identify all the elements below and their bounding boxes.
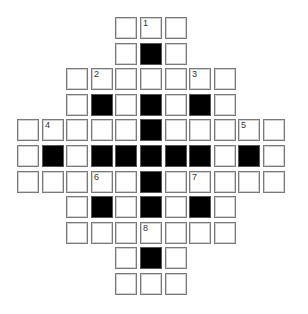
crossword-cell[interactable] — [214, 119, 236, 141]
black-cell — [140, 43, 162, 65]
black-cell — [115, 145, 137, 167]
crossword-cell[interactable] — [66, 171, 88, 193]
black-cell — [189, 94, 211, 116]
crossword-cell[interactable] — [165, 119, 187, 141]
crossword-cell[interactable] — [214, 68, 236, 90]
crossword-cell[interactable] — [263, 145, 285, 167]
crossword-cell[interactable] — [214, 145, 236, 167]
crossword-cell[interactable] — [165, 222, 187, 244]
crossword-cell[interactable] — [91, 119, 113, 141]
crossword-cell[interactable] — [115, 43, 137, 65]
clue-number: 6 — [94, 172, 99, 182]
crossword-cell[interactable] — [263, 119, 285, 141]
black-cell — [140, 196, 162, 218]
crossword-cell[interactable]: 8 — [140, 222, 162, 244]
black-cell — [238, 145, 260, 167]
crossword-cell[interactable] — [165, 196, 187, 218]
clue-number: 7 — [192, 172, 197, 182]
crossword-cell[interactable] — [165, 247, 187, 269]
clue-number: 4 — [45, 120, 50, 130]
crossword-cell[interactable] — [66, 196, 88, 218]
crossword-cell[interactable]: 4 — [42, 119, 64, 141]
crossword-cell[interactable] — [214, 171, 236, 193]
crossword-cell[interactable]: 7 — [189, 171, 211, 193]
crossword-cell[interactable] — [115, 247, 137, 269]
crossword-cell[interactable] — [17, 145, 39, 167]
clue-number: 8 — [143, 223, 148, 233]
clue-number: 2 — [94, 69, 99, 79]
black-cell — [140, 171, 162, 193]
crossword-cell[interactable] — [214, 196, 236, 218]
crossword-cell[interactable] — [189, 119, 211, 141]
black-cell — [42, 145, 64, 167]
crossword-cell[interactable] — [66, 119, 88, 141]
crossword-cell[interactable]: 1 — [140, 17, 162, 39]
crossword-grid: 12345678 — [17, 17, 289, 299]
crossword-cell[interactable] — [115, 222, 137, 244]
crossword-cell[interactable] — [66, 222, 88, 244]
crossword-cell[interactable] — [91, 222, 113, 244]
crossword-cell[interactable]: 5 — [238, 119, 260, 141]
crossword-cell[interactable] — [214, 94, 236, 116]
crossword-cell[interactable] — [115, 119, 137, 141]
crossword-cell[interactable] — [66, 145, 88, 167]
crossword-cell[interactable] — [238, 171, 260, 193]
black-cell — [189, 196, 211, 218]
crossword-cell[interactable] — [189, 222, 211, 244]
crossword-cell[interactable] — [165, 171, 187, 193]
crossword-cell[interactable]: 3 — [189, 68, 211, 90]
crossword-cell[interactable] — [66, 68, 88, 90]
black-cell — [91, 196, 113, 218]
crossword-cell[interactable] — [115, 196, 137, 218]
crossword-cell[interactable] — [17, 119, 39, 141]
black-cell — [91, 145, 113, 167]
black-cell — [140, 94, 162, 116]
black-cell — [140, 119, 162, 141]
crossword-cell[interactable]: 2 — [91, 68, 113, 90]
crossword-cell[interactable] — [165, 273, 187, 295]
clue-number: 1 — [143, 18, 148, 28]
crossword-cell[interactable] — [115, 94, 137, 116]
black-cell — [91, 94, 113, 116]
crossword-cell[interactable] — [115, 273, 137, 295]
black-cell — [189, 145, 211, 167]
crossword-cell[interactable] — [165, 43, 187, 65]
black-cell — [165, 145, 187, 167]
crossword-cell[interactable] — [42, 171, 64, 193]
crossword-cell[interactable] — [214, 222, 236, 244]
crossword-cell[interactable] — [165, 17, 187, 39]
black-cell — [140, 247, 162, 269]
clue-number: 5 — [241, 120, 246, 130]
crossword-cell[interactable] — [115, 17, 137, 39]
crossword-cell[interactable] — [66, 94, 88, 116]
crossword-cell[interactable] — [140, 273, 162, 295]
crossword-cell[interactable] — [115, 68, 137, 90]
crossword-cell[interactable] — [165, 94, 187, 116]
crossword-cell[interactable] — [17, 171, 39, 193]
black-cell — [140, 145, 162, 167]
crossword-cell[interactable] — [263, 171, 285, 193]
crossword-cell[interactable]: 6 — [91, 171, 113, 193]
clue-number: 3 — [192, 69, 197, 79]
crossword-cell[interactable] — [140, 68, 162, 90]
crossword-cell[interactable] — [165, 68, 187, 90]
crossword-cell[interactable] — [115, 171, 137, 193]
